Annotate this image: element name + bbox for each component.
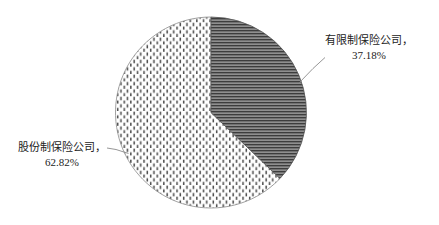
pie-label-limited-percent: 37.18% (325, 48, 413, 63)
pie-label-joint-stock-name: 股份制保险公司， (18, 140, 106, 155)
pie-chart: 有限制保险公司， 37.18% 股份制保险公司， 62.82% (0, 0, 439, 225)
pie-label-joint-stock-percent: 62.82% (18, 155, 106, 170)
pie-label-limited: 有限制保险公司， 37.18% (325, 33, 413, 63)
pie-slices (115, 17, 306, 208)
pie-label-limited-name: 有限制保险公司， (325, 33, 413, 48)
pie-label-joint-stock: 股份制保险公司， 62.82% (18, 140, 106, 170)
callout-line-limited (300, 58, 326, 83)
